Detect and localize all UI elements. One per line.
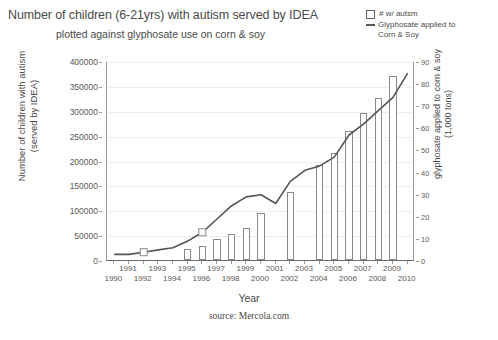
x-axis-tick-label: 2002 — [280, 274, 298, 283]
y-axis-right-tick: 0 — [421, 257, 425, 266]
line-marker-open-square — [140, 249, 147, 256]
chart-title: Number of children (6-21yrs) with autism… — [8, 8, 358, 22]
x-axis-tick-label: 2007 — [354, 264, 372, 273]
y-axis-left-tick-mark — [99, 186, 102, 187]
y-axis-right-tick: 40 — [421, 168, 429, 177]
y-axis-left-tick: 50000 — [74, 231, 98, 241]
y-axis-left-tick: 350000 — [70, 82, 98, 92]
x-axis-tick-label: 2010 — [398, 274, 416, 283]
x-axis-tick-mark — [201, 261, 202, 264]
y-axis-left-tick-mark — [99, 62, 102, 63]
y-axis-left-title: Number of children with autism (served b… — [16, 28, 40, 204]
x-axis-tick-label: 1990 — [104, 274, 122, 283]
y-axis-left-tick: 300000 — [70, 107, 98, 117]
x-axis-tick-label: 2000 — [251, 274, 269, 283]
line-series-glyphosate — [107, 62, 413, 260]
x-axis-title: Year — [0, 292, 498, 304]
x-axis-tick-label: 1998 — [222, 274, 240, 283]
x-axis-tick-label: 1991 — [119, 264, 137, 273]
legend-item-line: Glyphosate applied to Corn & Soy — [366, 20, 494, 39]
y-axis-left-tick: 100000 — [70, 206, 98, 216]
x-axis-tick-mark — [113, 261, 114, 264]
y-axis-left: 0500001000001500002000002500003000003500… — [56, 62, 102, 261]
y-axis-left-tick: 200000 — [70, 157, 98, 167]
y-axis-right-tick-mark — [416, 239, 419, 240]
chart-subtitle: plotted against glyphosate use on corn &… — [56, 28, 376, 40]
x-axis-tick-label: 1994 — [163, 274, 181, 283]
x-axis-tick-label: 2006 — [339, 274, 357, 283]
chart-figure: Number of children (6-21yrs) with autism… — [0, 0, 498, 340]
x-axis-tick-label: 1999 — [236, 264, 254, 273]
legend-label-autism: # w/ autsm — [379, 9, 418, 19]
y-axis-right-tick-mark — [416, 195, 419, 196]
x-axis-tick-mark — [143, 261, 144, 264]
x-axis-tick-label: 2004 — [310, 274, 328, 283]
glyphosate-line-path — [107, 62, 415, 261]
y-axis-right-tick-mark — [416, 84, 419, 85]
x-axis-tick-label: 2008 — [368, 274, 386, 283]
y-axis-left-tick-mark — [99, 137, 102, 138]
y-axis-right-tick: 90 — [421, 58, 429, 67]
y-axis-right-tick-mark — [416, 62, 419, 63]
y-axis-left-tick-mark — [99, 236, 102, 237]
x-axis-tick-mark — [319, 261, 320, 264]
x-axis: 1990199119921993199419951996199719981999… — [106, 261, 414, 287]
y-axis-left-tick: 150000 — [70, 181, 98, 191]
source-note: source: Mercola.com — [0, 311, 498, 321]
y-axis-right-title: glyphosate applied to corn & soy (1,000 … — [432, 26, 454, 202]
legend-item-bars: # w/ autsm — [366, 9, 494, 19]
x-axis-tick-mark — [260, 261, 261, 264]
y-axis-right-tick-mark — [416, 261, 419, 262]
y-axis-left-tick: 250000 — [70, 132, 98, 142]
y-axis-left-tick: 0 — [93, 256, 98, 266]
x-axis-tick-mark — [348, 261, 349, 264]
y-axis-left-tick-mark — [99, 87, 102, 88]
x-axis-tick-label: 2009 — [383, 264, 401, 273]
y-axis-left-tick-mark — [99, 162, 102, 163]
x-axis-tick-mark — [172, 261, 173, 264]
x-axis-tick-label: 2005 — [324, 264, 342, 273]
x-axis-tick-mark — [231, 261, 232, 264]
x-axis-tick-label: 1993 — [148, 264, 166, 273]
y-axis-left-tick-mark — [99, 112, 102, 113]
y-axis-left-tick: 400000 — [70, 57, 98, 67]
y-axis-right-tick-mark — [416, 150, 419, 151]
plot-area — [106, 62, 414, 261]
y-axis-right-tick: 10 — [421, 234, 429, 243]
x-axis-tick-mark — [289, 261, 290, 264]
y-axis-left-tick-mark — [99, 261, 102, 262]
x-axis-tick-label: 1996 — [192, 274, 210, 283]
y-axis-right-tick-mark — [416, 217, 419, 218]
x-axis-tick-label: 2001 — [266, 264, 284, 273]
y-axis-right-tick: 60 — [421, 124, 429, 133]
y-axis-left-tick-mark — [99, 211, 102, 212]
x-axis-tick-label: 2003 — [295, 264, 313, 273]
y-axis-right-tick: 50 — [421, 146, 429, 155]
line-swatch-icon — [366, 24, 375, 26]
chart-legend: # w/ autsm Glyphosate applied to Corn & … — [366, 9, 494, 40]
y-axis-right-tick-mark — [416, 128, 419, 129]
y-axis-right-tick-mark — [416, 173, 419, 174]
y-axis-right-tick: 70 — [421, 102, 429, 111]
y-axis-right-tick: 80 — [421, 80, 429, 89]
x-axis-tick-label: 1997 — [207, 264, 225, 273]
line-marker-open-square — [199, 229, 206, 236]
x-axis-tick-mark — [407, 261, 408, 264]
y-axis-right-tick: 20 — [421, 212, 429, 221]
x-axis-tick-mark — [377, 261, 378, 264]
x-axis-tick-label: 1992 — [134, 274, 152, 283]
open-square-icon — [366, 10, 375, 19]
y-axis-right-tick-mark — [416, 106, 419, 107]
y-axis-right-tick: 30 — [421, 190, 429, 199]
x-axis-tick-label: 1995 — [178, 264, 196, 273]
